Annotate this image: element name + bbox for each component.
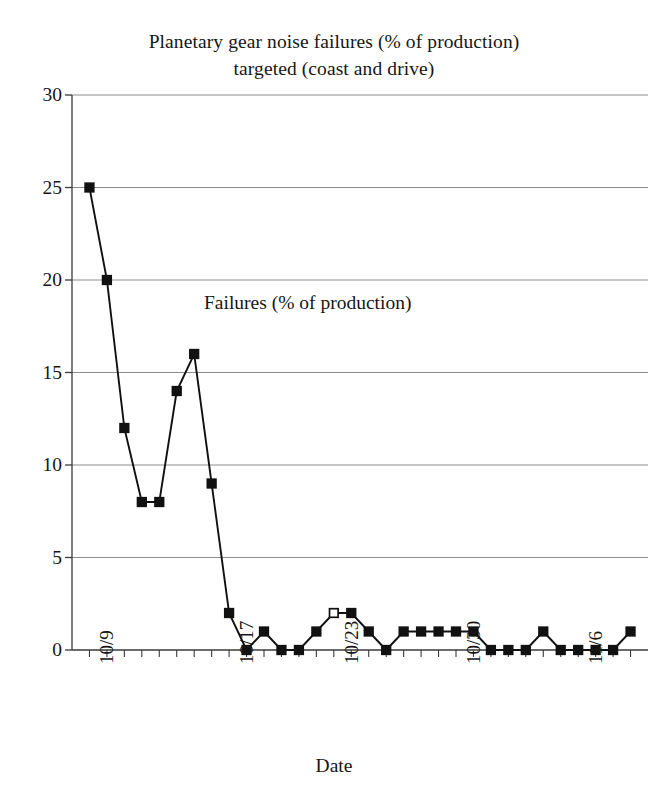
data-point-marker [172, 387, 181, 396]
data-point-marker [452, 627, 461, 636]
data-point-marker [504, 646, 513, 655]
chart-figure: Planetary gear noise failures (% of prod… [0, 0, 668, 803]
data-point-marker [364, 627, 373, 636]
y-tick-label-0: 0 [16, 639, 62, 661]
series-annotation-label: Failures (% of production) [204, 292, 411, 314]
x-tick-label-10-17: 10/17 [236, 621, 258, 664]
y-tick-label-25: 25 [16, 177, 62, 199]
data-point-marker [487, 646, 496, 655]
data-point-marker [312, 627, 321, 636]
y-tick-label-10: 10 [16, 454, 62, 476]
data-point-marker [556, 646, 565, 655]
y-tick-label-20: 20 [16, 269, 62, 291]
data-point-marker [260, 627, 269, 636]
data-point-marker [382, 646, 391, 655]
x-tick-label-10-30: 10/30 [463, 621, 485, 664]
data-point-marker [522, 646, 531, 655]
y-tick-label-15: 15 [16, 362, 62, 384]
data-line-failures [89, 188, 630, 651]
data-point-marker [295, 646, 304, 655]
data-point-marker [539, 627, 548, 636]
data-point-marker [155, 498, 164, 507]
chart-canvas [0, 0, 668, 803]
plot-area [0, 0, 668, 803]
data-point-marker [207, 479, 216, 488]
y-tick-label-5: 5 [16, 547, 62, 569]
y-tick-label-30: 30 [16, 84, 62, 106]
data-point-marker [626, 627, 635, 636]
data-point-marker [103, 276, 112, 285]
data-point-marker [417, 627, 426, 636]
data-point-marker [574, 646, 583, 655]
data-point-marker [347, 609, 356, 618]
data-point-marker [138, 498, 147, 507]
x-axis-title: Date [0, 755, 668, 777]
x-tick-label-11-6: 11/6 [585, 631, 607, 664]
data-point-marker [330, 609, 339, 618]
data-point-marker [277, 646, 286, 655]
data-point-marker [399, 627, 408, 636]
data-point-marker [609, 646, 618, 655]
data-point-marker [190, 350, 199, 359]
x-tick-label-10-23: 10/23 [341, 621, 363, 664]
data-point-marker [225, 609, 234, 618]
data-point-marker [85, 183, 94, 192]
data-point-marker [434, 627, 443, 636]
data-point-marker [120, 424, 129, 433]
x-tick-label-10-9: 10/9 [96, 630, 118, 664]
